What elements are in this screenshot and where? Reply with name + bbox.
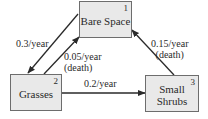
edge-label-shrubs-to-bare: 0.15/year (death) bbox=[151, 38, 189, 60]
edge-label-grasses-to-bare: 0.05/year (death) bbox=[64, 51, 102, 73]
transition-diagram: 1 Bare Space 2 Grasses 3 Small Shrubs 0.… bbox=[0, 0, 208, 119]
node-label: Grasses bbox=[11, 88, 61, 100]
node-number: 1 bbox=[124, 3, 129, 13]
edge-label-grasses-to-shrubs: 0.2/year bbox=[84, 78, 117, 89]
node-label: Small Shrubs bbox=[146, 83, 198, 107]
node-small-shrubs: 3 Small Shrubs bbox=[145, 75, 199, 112]
node-bare-space: 1 Bare Space bbox=[79, 1, 132, 38]
node-label: Bare Space bbox=[80, 15, 131, 27]
edge-label-bare-to-grasses: 0.3/year bbox=[16, 38, 49, 49]
node-number: 2 bbox=[54, 76, 59, 86]
node-grasses: 2 Grasses bbox=[10, 74, 62, 111]
